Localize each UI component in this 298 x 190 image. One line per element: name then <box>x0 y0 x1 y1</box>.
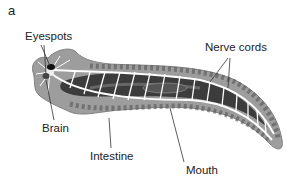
label-mouth: Mouth <box>186 165 218 177</box>
pharynx <box>143 83 187 93</box>
label-nerve-cords: Nerve cords <box>205 42 267 54</box>
label-intestine: Intestine <box>90 151 133 163</box>
label-eyespots: Eyespots <box>25 31 72 43</box>
label-brain: Brain <box>42 123 69 135</box>
eyespot-1 <box>47 64 55 70</box>
planarian-diagram <box>0 0 298 190</box>
